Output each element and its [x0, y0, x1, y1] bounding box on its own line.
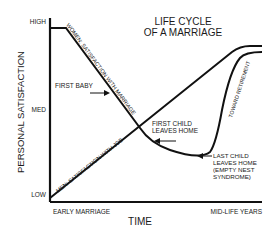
x-tick-mid-life: MID-LIFE YEARS [210, 208, 262, 215]
women-curve-label: WOMEN: SATISFACTION WITH MARRIAGE [65, 22, 137, 116]
last-child-label-3: (EMPTY NEST [213, 166, 255, 173]
y-tick-low: LOW [31, 191, 47, 198]
life-cycle-diagram: LIFE CYCLE OF A MARRIAGE HIGH MED LOW PE… [0, 0, 279, 235]
y-axis-label: PERSONAL SATISFACTION [15, 51, 26, 173]
title-line-1: LIFE CYCLE [154, 16, 212, 27]
title-line-2: OF A MARRIAGE [144, 27, 223, 38]
y-tick-med: MED [32, 106, 47, 113]
last-child-label-1: LAST CHILD [213, 152, 249, 159]
retirement-label: TOWARD RETIREMENT [227, 59, 251, 118]
first-baby-arrowhead-icon [104, 90, 110, 96]
x-axis-label: TIME [128, 216, 152, 227]
last-child-label-4: SYNDROME) [213, 173, 251, 180]
men-curve-label: MEN: SATISFACTION WITH JOB [55, 137, 124, 194]
x-tick-early-marriage: EARLY MARRIAGE [53, 208, 111, 215]
first-child-label-1: FIRST CHILD [152, 120, 192, 127]
first-child-label-2: LEAVES HOME [152, 127, 199, 134]
last-child-arrowhead-icon [197, 153, 203, 159]
last-child-label-2: LEAVES HOME [213, 159, 257, 166]
y-tick-high: HIGH [30, 18, 47, 25]
first-baby-label: FIRST BABY [55, 82, 93, 89]
